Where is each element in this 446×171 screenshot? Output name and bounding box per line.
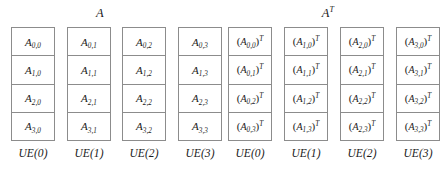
block-base: A (136, 92, 143, 104)
matrix-block-cell: A2,2 (123, 85, 165, 113)
block-subscript: 0,2 (143, 42, 152, 50)
matrix-block-cell: (A1,1)T (285, 56, 327, 84)
matrix-block-label: A0,1 (81, 36, 97, 48)
matrix-block-label: A0,2 (136, 36, 152, 48)
matrix-block-label: A2,2 (136, 92, 152, 104)
block-base: A (408, 93, 414, 104)
matrix-block-label: A3,2 (136, 120, 152, 132)
ue-label: UE(0) (5, 146, 61, 160)
matrix-title-base: A (322, 6, 330, 20)
block-base: A (296, 121, 302, 132)
matrix-block-label: (A3,0)T (405, 35, 431, 48)
ue-label: UE(2) (334, 146, 390, 160)
block-subscript: 1,1 (303, 70, 312, 78)
block-base: A (25, 92, 32, 104)
block-base: A (192, 36, 199, 48)
block-subscript: 3,3 (415, 126, 424, 134)
matrix-column: A0,3A1,3A2,3A3,3 (178, 27, 222, 141)
block-subscript: 1,2 (303, 98, 312, 106)
block-transpose-superscript: T (427, 35, 431, 43)
matrix-title-matrix-a: A (40, 6, 160, 20)
block-base: A (296, 93, 302, 104)
matrix-block-label: A3,3 (192, 120, 208, 132)
block-subscript: 3,0 (415, 42, 424, 50)
matrix-column: (A1,0)T(A1,1)T(A1,2)T(A1,3)T (284, 27, 328, 141)
block-transpose-superscript: T (371, 35, 375, 43)
block-base: A (408, 121, 414, 132)
column-container: (A0,0)T(A0,1)T(A0,2)T(A0,3)T(A1,0)T(A1,1… (223, 27, 446, 141)
block-subscript: 2,2 (359, 98, 368, 106)
matrix-block-cell: A0,1 (68, 28, 110, 56)
matrix-block-label: (A3,2)T (405, 92, 431, 105)
matrix-block-cell: A3,2 (123, 113, 165, 140)
matrix-title-matrix-a-transpose: AT (268, 6, 388, 20)
matrix-block-cell: (A3,0)T (397, 28, 439, 56)
ue-label: UE(0) (222, 146, 278, 160)
matrix-block-label: A1,2 (136, 64, 152, 76)
block-base: A (352, 121, 358, 132)
block-transpose-superscript: T (259, 63, 263, 71)
matrix-block-label: (A3,3)T (405, 120, 431, 133)
block-base: A (192, 64, 199, 76)
matrix-block-cell: (A1,0)T (285, 28, 327, 56)
matrix-block-cell: A3,0 (12, 113, 54, 140)
block-transpose-superscript: T (427, 120, 431, 128)
matrix-block-cell: (A2,3)T (341, 113, 383, 140)
block-base: A (136, 36, 143, 48)
matrix-block-label: (A1,2)T (293, 92, 319, 105)
block-subscript: 2,0 (32, 99, 41, 107)
block-base: A (296, 36, 302, 47)
matrix-block-label: (A0,2)T (237, 92, 263, 105)
matrix-block-cell: (A0,1)T (229, 56, 271, 84)
block-subscript: 3,2 (415, 98, 424, 106)
block-transpose-superscript: T (315, 91, 319, 99)
ue-label: UE(2) (116, 146, 172, 160)
block-subscript: 1,1 (88, 70, 97, 78)
block-subscript: 1,2 (143, 70, 152, 78)
matrix-block-cell: (A1,2)T (285, 85, 327, 113)
block-base: A (81, 64, 88, 76)
matrix-block-label: A1,3 (192, 64, 208, 76)
block-subscript: 0,1 (88, 42, 97, 50)
block-subscript: 0,0 (32, 42, 41, 50)
ue-label: UE(1) (61, 146, 117, 160)
matrix-block-label: A3,1 (81, 120, 97, 132)
matrix-block-label: A1,1 (81, 64, 97, 76)
matrix-block-cell: A2,0 (12, 85, 54, 113)
block-transpose-superscript: T (259, 91, 263, 99)
block-subscript: 3,1 (88, 127, 97, 135)
matrix-block-label: A2,1 (81, 92, 97, 104)
matrix-block-cell: (A2,0)T (341, 28, 383, 56)
matrix-block-label: A3,0 (25, 120, 41, 132)
matrix-block-cell: (A0,2)T (229, 85, 271, 113)
block-transpose-superscript: T (315, 35, 319, 43)
matrix-title-transpose-superscript: T (330, 5, 335, 14)
block-base: A (81, 36, 88, 48)
matrix-block-cell: A1,0 (12, 56, 54, 84)
block-base: A (240, 36, 246, 47)
block-base: A (25, 64, 32, 76)
ue-label-row: UE(0)UE(1)UE(2)UE(3) (223, 146, 446, 164)
block-base: A (192, 120, 199, 132)
block-subscript: 0,3 (199, 42, 208, 50)
block-base: A (352, 36, 358, 47)
matrix-block-label: (A1,1)T (293, 63, 319, 76)
block-subscript: 3,2 (143, 127, 152, 135)
block-subscript: 0,2 (247, 98, 256, 106)
block-base: A (136, 120, 143, 132)
matrix-block-label: (A0,1)T (237, 63, 263, 76)
matrix-block-cell: (A2,2)T (341, 85, 383, 113)
matrix-block-label: (A3,1)T (405, 63, 431, 76)
block-base: A (296, 64, 302, 75)
block-transpose-superscript: T (259, 120, 263, 128)
block-subscript: 2,3 (359, 126, 368, 134)
block-base: A (25, 120, 32, 132)
block-subscript: 1,3 (303, 126, 312, 134)
matrix-column: (A2,0)T(A2,1)T(A2,2)T(A2,3)T (340, 27, 384, 141)
column-container: A0,0A1,0A2,0A3,0A0,1A1,1A2,1A3,1A0,2A1,2… (0, 27, 223, 141)
matrix-block-cell: A3,1 (68, 113, 110, 140)
block-transpose-superscript: T (315, 120, 319, 128)
matrix-block-cell: (A3,2)T (397, 85, 439, 113)
matrix-block-label: (A2,1)T (349, 63, 375, 76)
matrix-block-cell: A1,2 (123, 56, 165, 84)
